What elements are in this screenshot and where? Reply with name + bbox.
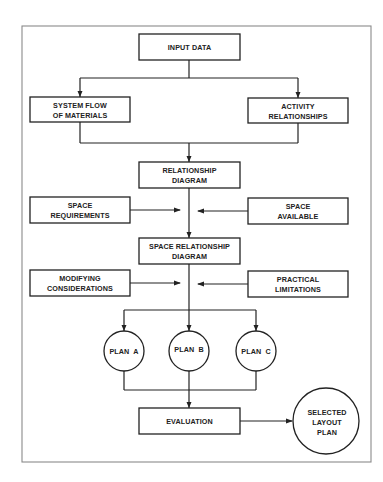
node-planA-label: PLAN A xyxy=(109,347,138,356)
node-reldiag-label-1: RELATIONSHIP xyxy=(162,166,216,175)
node-modifying-label-1: MODIFYING xyxy=(59,274,101,283)
node-planC-label: PLAN C xyxy=(241,347,270,356)
node-flow-label-2: OF MATERIALS xyxy=(53,111,108,120)
node-practical-label-2: LIMITATIONS xyxy=(275,285,321,294)
node-modifying-label-2: CONSIDERATIONS xyxy=(47,284,113,293)
node-evaluation: EVALUATION xyxy=(139,408,240,434)
node-spacereldiag: SPACE RELATIONSHIP DIAGRAM xyxy=(139,238,240,264)
node-spacereldiag-label-1: SPACE RELATIONSHIP xyxy=(149,242,230,251)
node-flow: SYSTEM FLOW OF MATERIALS xyxy=(30,97,130,122)
node-practical: PRACTICAL LIMITATIONS xyxy=(248,271,348,297)
node-spacereq-label-2: REQUIREMENTS xyxy=(50,211,109,220)
node-selected-label-1: SELECTED xyxy=(307,408,346,417)
node-activity-label-1: ACTIVITY xyxy=(281,102,315,111)
node-reldiag: RELATIONSHIP DIAGRAM xyxy=(139,162,240,188)
node-evaluation-label: EVALUATION xyxy=(166,417,213,426)
layout-planning-flowchart: INPUT DATA SYSTEM FLOW OF MATERIALS ACTI… xyxy=(0,0,383,482)
node-planB-label: PLAN B xyxy=(174,345,203,354)
node-input-label: INPUT DATA xyxy=(168,43,211,52)
node-activity: ACTIVITY RELATIONSHIPS xyxy=(248,98,348,123)
node-planA: PLAN A xyxy=(104,331,144,371)
node-selected-label-3: PLAN xyxy=(317,428,337,437)
node-planC: PLAN C xyxy=(236,331,276,371)
node-spaceavail-label-1: SPACE xyxy=(286,202,311,211)
node-input: INPUT DATA xyxy=(139,34,240,60)
node-selected: SELECTED LAYOUT PLAN xyxy=(293,388,359,454)
node-reldiag-label-2: DIAGRAM xyxy=(172,176,207,185)
node-planB: PLAN B xyxy=(169,331,209,371)
node-selected-label-2: LAYOUT xyxy=(312,418,342,427)
node-flow-label-1: SYSTEM FLOW xyxy=(53,101,107,110)
node-spacereq: SPACE REQUIREMENTS xyxy=(30,197,130,223)
node-spaceavail-label-2: AVAILABLE xyxy=(278,212,319,221)
node-modifying: MODIFYING CONSIDERATIONS xyxy=(30,270,130,296)
node-spaceavail: SPACE AVAILABLE xyxy=(248,198,348,224)
node-spacereldiag-label-2: DIAGRAM xyxy=(172,252,207,261)
node-spacereq-label-1: SPACE xyxy=(68,201,93,210)
node-activity-label-2: RELATIONSHIPS xyxy=(268,112,327,121)
node-practical-label-1: PRACTICAL xyxy=(277,275,320,284)
